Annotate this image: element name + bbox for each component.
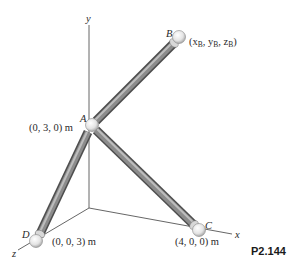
point-d-coords: (0, 0, 3) m [52, 236, 96, 248]
point-c-label: C [205, 220, 213, 231]
z-axis-label: z [11, 248, 16, 259]
point-a-coords: (0, 3, 0) m [29, 122, 73, 134]
joint-a [86, 119, 99, 132]
problem-number: P2.144 [251, 245, 287, 257]
point-c-coords: (4, 0, 0) m [175, 236, 219, 248]
point-d-label: D [21, 229, 30, 240]
joint-c [193, 224, 206, 237]
statics-diagram: y x z A (0, 3, 0) m B (xB, yB, zB) C (4,… [0, 0, 301, 267]
member-ad [34, 132, 88, 239]
x-axis-label: x [234, 229, 240, 240]
point-a-label: A [79, 113, 87, 124]
y-axis-label: y [85, 13, 91, 24]
point-b-coords: (xB, yB, zB) [189, 36, 237, 49]
joint-b [173, 31, 186, 44]
member-ac [96, 129, 200, 231]
point-b-label: B [166, 28, 173, 39]
member-ab [95, 37, 180, 121]
joint-d [30, 235, 43, 248]
